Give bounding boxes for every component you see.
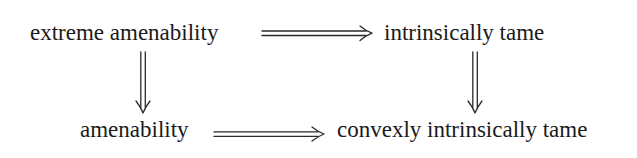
double-arrow-right-icon	[214, 127, 324, 141]
double-arrow-right-icon	[262, 26, 372, 41]
double-arrow-down-icon	[468, 52, 482, 113]
double-arrow-down-icon	[136, 52, 150, 113]
arrows-layer	[0, 0, 637, 158]
